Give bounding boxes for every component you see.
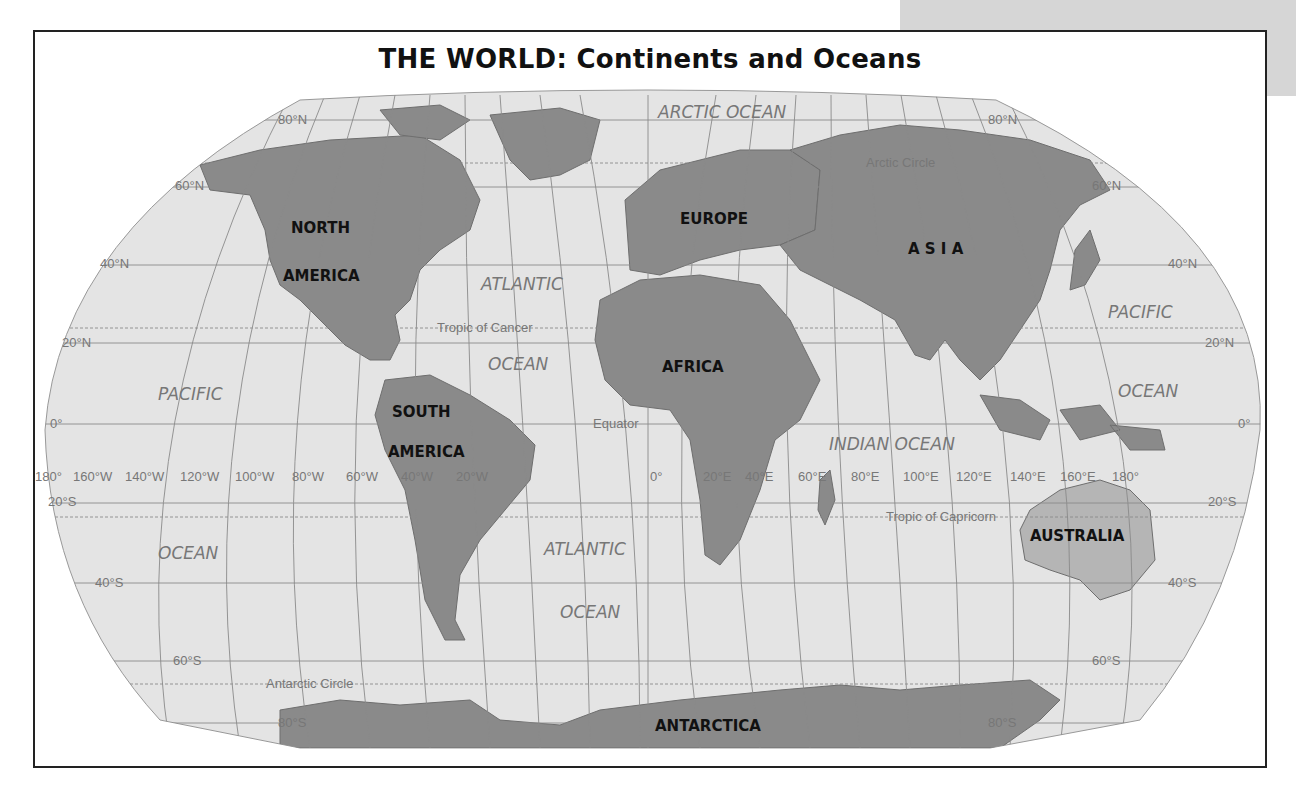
lat-label-80s-left: 80°S: [278, 715, 307, 730]
tropic-of-capricorn-label: Tropic of Capricorn: [886, 509, 996, 524]
africa-label: AFRICA: [662, 358, 724, 376]
asia-label: A S I A: [908, 240, 964, 258]
arctic-ocean-label: ARCTIC OCEAN: [657, 102, 787, 122]
lon-label-140e: 140°E: [1010, 469, 1046, 484]
lat-label-60n-right: 60°N: [1092, 178, 1121, 193]
lon-label-80w: 80°W: [292, 469, 325, 484]
antarctica-label: ANTARCTICA: [655, 717, 761, 735]
pacific-west-label-2: OCEAN: [158, 543, 219, 563]
arctic-circle-label: Arctic Circle: [866, 155, 935, 170]
lon-label-180w: 180°: [35, 469, 62, 484]
lat-label-eq-right: 0°: [1238, 416, 1250, 431]
lon-label-20w: 20°W: [456, 469, 489, 484]
lat-label-60s-right: 60°S: [1092, 653, 1121, 668]
lat-label-20s-right: 20°S: [1208, 494, 1237, 509]
atlantic-north-label-2: OCEAN: [488, 354, 549, 374]
lon-label-40w: 40°W: [401, 469, 434, 484]
pacific-east-label-1: PACIFIC: [1108, 302, 1173, 322]
lat-label-60n-left: 60°N: [175, 178, 204, 193]
lon-label-100e: 100°E: [903, 469, 939, 484]
atlantic-south-label-1: ATLANTIC: [543, 539, 626, 559]
world-map: 80°N 80°N 60°N 60°N 40°N 40°N 20°N 20°N …: [0, 0, 1296, 804]
lat-label-80s-right: 80°S: [988, 715, 1017, 730]
south-america-label-2: AMERICA: [388, 443, 465, 461]
lat-label-80n-right: 80°N: [988, 112, 1017, 127]
lat-label-40s-left: 40°S: [95, 575, 124, 590]
lon-label-120w: 120°W: [180, 469, 220, 484]
equator-label: Equator: [593, 416, 639, 431]
lat-label-20n-right: 20°N: [1205, 335, 1234, 350]
lon-label-40e: 40°E: [745, 469, 774, 484]
lon-label-100w: 100°W: [235, 469, 275, 484]
lat-label-40n-left: 40°N: [100, 256, 129, 271]
lat-label-40s-right: 40°S: [1168, 575, 1197, 590]
lon-label-120e: 120°E: [956, 469, 992, 484]
lon-label-0: 0°: [650, 469, 662, 484]
lat-label-80n-left: 80°N: [278, 112, 307, 127]
indian-ocean-label: INDIAN OCEAN: [829, 434, 955, 454]
lat-label-60s-left: 60°S: [173, 653, 202, 668]
atlantic-north-label-1: ATLANTIC: [480, 274, 563, 294]
lon-label-160e: 160°E: [1060, 469, 1096, 484]
lat-label-40n-right: 40°N: [1168, 256, 1197, 271]
lon-label-180e: 180°: [1112, 469, 1139, 484]
australia-label: AUSTRALIA: [1030, 527, 1125, 545]
lon-label-80e: 80°E: [851, 469, 880, 484]
lon-label-60w: 60°W: [346, 469, 379, 484]
atlantic-south-label-2: OCEAN: [560, 602, 621, 622]
tropic-of-cancer-label: Tropic of Cancer: [437, 320, 533, 335]
lat-label-eq-left: 0°: [50, 416, 62, 431]
south-america-label-1: SOUTH: [392, 403, 451, 421]
pacific-east-label-2: OCEAN: [1118, 381, 1179, 401]
lon-label-20e: 20°E: [703, 469, 732, 484]
north-america-label-2: AMERICA: [283, 267, 360, 285]
north-america-label-1: NORTH: [291, 219, 350, 237]
antarctic-circle-label: Antarctic Circle: [266, 676, 353, 691]
europe-label: EUROPE: [680, 210, 748, 228]
lat-label-20n-left: 20°N: [62, 335, 91, 350]
lat-label-20s-left: 20°S: [48, 494, 77, 509]
lon-label-60e: 60°E: [798, 469, 827, 484]
lon-label-160w: 160°W: [73, 469, 113, 484]
pacific-west-label-1: PACIFIC: [158, 384, 223, 404]
lon-label-140w: 140°W: [125, 469, 165, 484]
